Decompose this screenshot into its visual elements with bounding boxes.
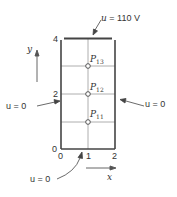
point-label-p12: P12: [90, 83, 104, 93]
left-boundary-label: u = 0: [6, 102, 26, 111]
point-subscript: 11: [96, 113, 104, 120]
y-tick-2: 2: [53, 90, 58, 99]
y-axis-label: y: [27, 45, 32, 54]
bottom-leader-arrowhead-icon: [78, 152, 83, 159]
point-subscript: 12: [96, 86, 104, 93]
point-label-p13: P13: [90, 55, 104, 65]
left-leader-line: [37, 102, 55, 106]
right-boundary-label: u = 0: [145, 100, 165, 109]
y-tick-0: 0: [52, 145, 57, 154]
point-label-p11: P11: [90, 110, 104, 120]
x-tick-1: 1: [86, 152, 91, 161]
top-leader-arrowhead-icon: [93, 29, 98, 35]
top-boundary-value: = 110 V: [109, 13, 140, 23]
y-axis-arrow-icon: [35, 50, 39, 82]
top-boundary-label: u = 110 V: [101, 14, 140, 23]
bottom-boundary-label: u = 0: [30, 175, 50, 184]
point-p11: [86, 120, 91, 125]
left-leader-arrowhead-icon: [54, 100, 60, 105]
x-tick-2: 2: [112, 152, 117, 161]
right-leader-arrowhead-icon: [120, 99, 126, 104]
x-tick-0: 0: [58, 152, 63, 161]
y-tick-4: 4: [53, 35, 58, 44]
x-axis-arrow-icon: [86, 166, 116, 170]
point-subscript: 13: [96, 58, 104, 65]
bottom-leader-line: [57, 158, 80, 179]
x-axis-label: x: [107, 173, 112, 182]
right-leader-line: [126, 101, 144, 106]
